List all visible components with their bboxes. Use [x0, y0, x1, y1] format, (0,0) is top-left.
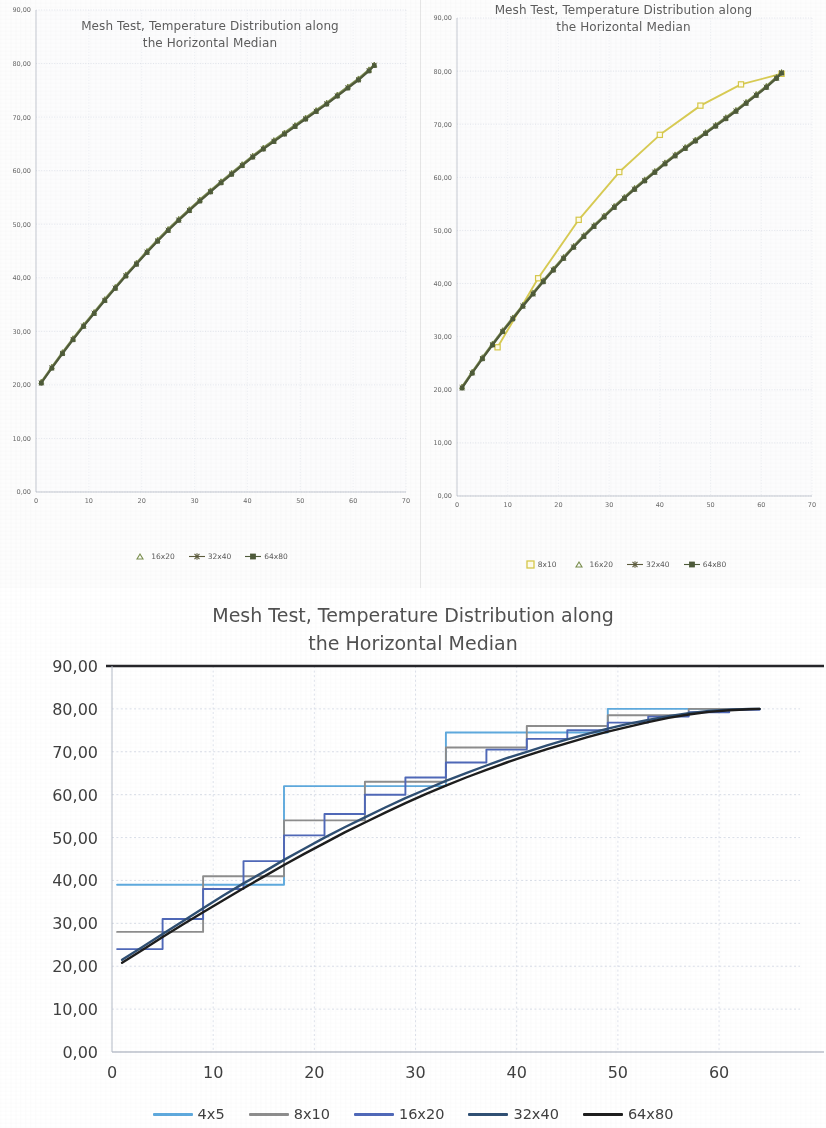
svg-text:70,00: 70,00 [433, 121, 452, 129]
svg-text:10,00: 10,00 [12, 435, 31, 443]
svg-text:70,00: 70,00 [52, 743, 98, 762]
legend-marker-icon [245, 552, 261, 561]
title-line-2: the Horizontal Median [421, 19, 826, 36]
svg-text:60: 60 [349, 497, 357, 505]
legend-marker-icon [684, 560, 700, 569]
legend-item-8x10[interactable]: 8x10 [249, 1106, 330, 1122]
svg-text:70: 70 [808, 501, 816, 509]
svg-text:50,00: 50,00 [433, 227, 452, 235]
svg-text:90,00: 90,00 [52, 657, 98, 676]
chart-top-right-title: Mesh Test, Temperature Distribution alon… [421, 2, 826, 37]
svg-text:40,00: 40,00 [52, 871, 98, 890]
legend-item-64x80[interactable]: 64x80 [684, 560, 727, 569]
legend-item-32x40[interactable]: 32x40 [627, 560, 670, 569]
svg-text:40,00: 40,00 [433, 280, 452, 288]
svg-text:10: 10 [203, 1063, 223, 1082]
legend-item-16x20[interactable]: 16x20 [132, 552, 175, 561]
chart-bottom-canvas: 90,0080,0070,0060,0050,0040,0030,0020,00… [0, 652, 826, 1122]
legend-item-label: 64x80 [703, 560, 727, 569]
svg-text:0,00: 0,00 [17, 488, 31, 496]
svg-text:30,00: 30,00 [12, 328, 31, 336]
svg-text:40: 40 [243, 497, 251, 505]
svg-text:30,00: 30,00 [433, 333, 452, 341]
svg-text:70: 70 [402, 497, 410, 505]
svg-text:20,00: 20,00 [12, 381, 31, 389]
legend-item-64x80[interactable]: 64x80 [245, 552, 288, 561]
chart-top-left-title: Mesh Test, Temperature Distribution alon… [0, 18, 420, 53]
chart-top-right: Mesh Test, Temperature Distribution alon… [421, 0, 826, 588]
legend-item-64x80[interactable]: 64x80 [583, 1106, 673, 1122]
title-line-1: Mesh Test, Temperature Distribution alon… [0, 18, 420, 35]
svg-text:40: 40 [656, 501, 664, 509]
title-line-1: Mesh Test, Temperature Distribution alon… [0, 602, 826, 630]
svg-text:20: 20 [554, 501, 562, 509]
svg-text:80,00: 80,00 [433, 68, 452, 76]
legend-item-label: 64x80 [264, 552, 288, 561]
svg-text:30,00: 30,00 [52, 914, 98, 933]
svg-text:60: 60 [757, 501, 765, 509]
chart-bottom-legend: 4x58x1016x2032x4064x80 [0, 1106, 826, 1122]
svg-text:50,00: 50,00 [52, 829, 98, 848]
legend-line-swatch [249, 1113, 289, 1116]
top-charts-row: Mesh Test, Temperature Distribution alon… [0, 0, 826, 592]
chart-top-left-canvas: 90,0080,0070,0060,0050,0040,0030,0020,00… [0, 0, 420, 560]
legend-line-swatch [354, 1113, 394, 1116]
legend-marker-icon [189, 552, 205, 561]
chart-top-left: Mesh Test, Temperature Distribution alon… [0, 0, 420, 588]
svg-text:60,00: 60,00 [12, 167, 31, 175]
legend-item-label: 32x40 [208, 552, 232, 561]
svg-text:10: 10 [504, 501, 512, 509]
svg-text:10,00: 10,00 [433, 439, 452, 447]
legend-item-label: 16x20 [151, 552, 175, 561]
svg-text:60: 60 [709, 1063, 729, 1082]
svg-text:70,00: 70,00 [12, 114, 31, 122]
svg-text:50,00: 50,00 [12, 221, 31, 229]
legend-item-16x20[interactable]: 16x20 [571, 560, 614, 569]
svg-text:60,00: 60,00 [52, 786, 98, 805]
legend-marker-icon [526, 560, 535, 569]
svg-text:10,00: 10,00 [52, 1000, 98, 1019]
svg-text:40: 40 [507, 1063, 527, 1082]
svg-text:60,00: 60,00 [433, 174, 452, 182]
svg-text:30: 30 [405, 1063, 425, 1082]
svg-text:40,00: 40,00 [12, 274, 31, 282]
legend-item-label: 8x10 [294, 1106, 330, 1122]
legend-item-8x10[interactable]: 8x10 [526, 560, 557, 569]
legend-item-32x40[interactable]: 32x40 [189, 552, 232, 561]
legend-item-label: 64x80 [628, 1106, 673, 1122]
svg-text:0,00: 0,00 [62, 1043, 98, 1062]
svg-text:20: 20 [138, 497, 146, 505]
legend-marker-icon [627, 560, 643, 569]
chart-bottom-title: Mesh Test, Temperature Distribution alon… [0, 602, 826, 657]
svg-text:80,00: 80,00 [12, 60, 31, 68]
legend-marker-icon [571, 560, 587, 569]
chart-top-right-canvas: 90,0080,0070,0060,0050,0040,0030,0020,00… [421, 0, 826, 560]
legend-item-4x5[interactable]: 4x5 [153, 1106, 225, 1122]
legend-line-swatch [153, 1113, 193, 1116]
svg-text:50: 50 [706, 501, 714, 509]
legend-item-32x40[interactable]: 32x40 [468, 1106, 558, 1122]
svg-text:0: 0 [107, 1063, 117, 1082]
legend-item-16x20[interactable]: 16x20 [354, 1106, 444, 1122]
legend-item-label: 16x20 [399, 1106, 444, 1122]
chart-bottom: Mesh Test, Temperature Distribution alon… [0, 592, 826, 1128]
svg-text:0: 0 [455, 501, 459, 509]
legend-line-swatch [468, 1113, 508, 1116]
svg-text:20: 20 [304, 1063, 324, 1082]
svg-text:0,00: 0,00 [438, 492, 452, 500]
legend-item-label: 32x40 [513, 1106, 558, 1122]
legend-item-label: 4x5 [198, 1106, 225, 1122]
legend-line-swatch [583, 1113, 623, 1116]
title-line-2: the Horizontal Median [0, 35, 420, 52]
svg-text:10: 10 [85, 497, 93, 505]
page-root: Mesh Test, Temperature Distribution alon… [0, 0, 826, 1128]
svg-text:20,00: 20,00 [433, 386, 452, 394]
svg-text:30: 30 [605, 501, 613, 509]
svg-text:50: 50 [608, 1063, 628, 1082]
legend-item-label: 8x10 [538, 560, 557, 569]
svg-text:50: 50 [296, 497, 304, 505]
chart-top-left-legend: 16x2032x4064x80 [60, 552, 360, 561]
svg-text:20,00: 20,00 [52, 957, 98, 976]
chart-top-right-legend: 8x1016x2032x4064x80 [461, 560, 791, 569]
svg-text:90,00: 90,00 [12, 6, 31, 14]
